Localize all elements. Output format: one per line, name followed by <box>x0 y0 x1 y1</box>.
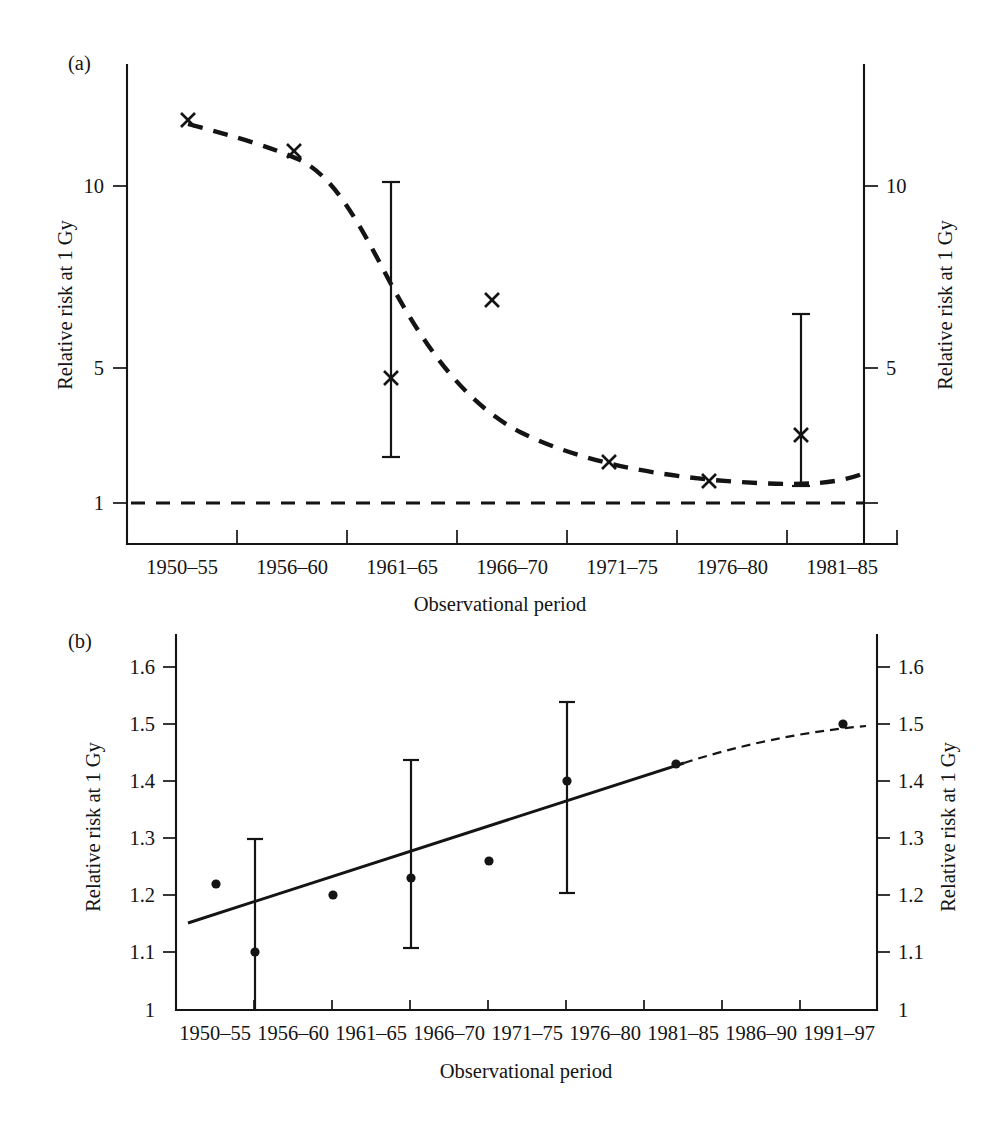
panel-b-marker-1966-70 <box>406 873 415 882</box>
panel-b-ytick-1-2: 1.2 <box>129 884 155 906</box>
panel-b-ytick-right-1-4: 1.4 <box>898 770 924 792</box>
panel-b-ylabel-right: Relative risk at 1 Gy <box>937 741 960 911</box>
panel-b-xtick-7: 1986–90 <box>725 1022 797 1044</box>
panel-a-xtick-3: 1966–70 <box>476 556 548 578</box>
panel-a-xtick-4: 1971–75 <box>586 556 658 578</box>
panel-b-right-axis: 1.6 1.5 1.4 1.3 1.2 1.1 1 Relative risk … <box>877 635 960 1021</box>
panel-a-ytick-right-5: 5 <box>886 357 896 379</box>
panel-b-xtick-1: 1956–60 <box>257 1022 329 1044</box>
panel-a-marker-1966-70 <box>485 293 499 307</box>
panel-b-ytick-right-1-5: 1.5 <box>898 713 924 735</box>
panel-a-ylabel-left: Relative risk at 1 Gy <box>54 219 77 389</box>
panel-a-xtick-1: 1956–60 <box>256 556 328 578</box>
panel-b-xtick-5: 1976–80 <box>569 1022 641 1044</box>
panel-b-marker-1976-80 <box>562 776 571 785</box>
panel-b-ytick-1-1: 1.1 <box>129 941 155 963</box>
panel-a-ytick-5: 5 <box>94 357 104 379</box>
panel-b-ytick-right-1-2: 1.2 <box>898 884 924 906</box>
panel-b-xtick-6: 1981–85 <box>647 1022 719 1044</box>
panel-b-ytick-1-4: 1.4 <box>129 770 155 792</box>
panel-a-letter: (a) <box>68 52 91 75</box>
panel-b-letter: (b) <box>68 630 92 653</box>
figure-container: (a) 10 5 1 Relative risk at 1 Gy 10 5 <box>0 0 999 1129</box>
panel-b-ytick-1: 1 <box>145 999 155 1021</box>
panel-b-marker-1981-85 <box>671 759 680 768</box>
panel-a-ytick-1: 1 <box>94 492 104 514</box>
panel-a-marker-1971-75 <box>602 455 616 469</box>
panel-b-ytick-right-1-1: 1.1 <box>898 941 924 963</box>
panel-a-errorbar-1981-85 <box>792 313 810 487</box>
panel-a-chart: (a) 10 5 1 Relative risk at 1 Gy 10 5 <box>0 0 999 620</box>
panel-b-xlabel: Observational period <box>440 1060 613 1083</box>
panel-b-trend-solid <box>188 763 684 923</box>
panel-b-xtick-8: 1991–97 <box>803 1022 875 1044</box>
panel-b-ylabel-left: Relative risk at 1 Gy <box>82 741 105 911</box>
panel-a-xtick-2: 1961–65 <box>366 556 438 578</box>
panel-b-trend-dashed <box>684 726 866 763</box>
panel-b-marker-1950-55 <box>211 879 220 888</box>
panel-b-chart: (b) 1.6 1.5 1.4 1.3 1.2 1.1 1 Relative r… <box>0 612 999 1129</box>
panel-b-xtick-3: 1966–70 <box>413 1022 485 1044</box>
panel-a-ytick-right-10: 10 <box>886 175 907 197</box>
panel-b-svg: (b) 1.6 1.5 1.4 1.3 1.2 1.1 1 Relative r… <box>0 612 999 1129</box>
panel-b-x-axis <box>176 1000 877 1010</box>
panel-b-xtick-2: 1961–65 <box>335 1022 407 1044</box>
panel-a-xtick-5: 1976–80 <box>696 556 768 578</box>
panel-b-ytick-1-6: 1.6 <box>129 656 155 678</box>
panel-b-xtick-0: 1950–55 <box>179 1022 251 1044</box>
panel-a-errorbar-1961-65 <box>382 181 400 458</box>
panel-b-marker-1991-97 <box>838 719 847 728</box>
panel-b-ytick-1-5: 1.5 <box>129 713 155 735</box>
panel-a-left-axis: 10 5 1 Relative risk at 1 Gy <box>54 65 127 544</box>
panel-b-xtick-4: 1971–75 <box>491 1022 563 1044</box>
panel-a-svg: (a) 10 5 1 Relative risk at 1 Gy 10 5 <box>0 0 999 620</box>
panel-a-ytick-10: 10 <box>84 175 105 197</box>
panel-a-x-axis <box>127 530 897 544</box>
panel-b-ytick-1-3: 1.3 <box>129 827 155 849</box>
panel-b-marker-1961-65 <box>328 890 337 899</box>
panel-b-marker-1971-75 <box>484 856 493 865</box>
panel-b-xtick-labels: 1950–55 1956–60 1961–65 1966–70 1971–75 … <box>179 1022 875 1044</box>
panel-b-ytick-right-1-6: 1.6 <box>898 656 924 678</box>
panel-b-ytick-right-1-3: 1.3 <box>898 827 924 849</box>
panel-a-xtick-6: 1981–85 <box>806 556 878 578</box>
panel-b-errorbar-1956-60 <box>247 838 263 1010</box>
panel-a-right-axis: 10 5 Relative risk at 1 Gy <box>864 65 957 544</box>
panel-a-ylabel-right: Relative risk at 1 Gy <box>934 219 957 389</box>
panel-a-xtick-0: 1950–55 <box>146 556 218 578</box>
panel-a-fit-curve <box>188 124 862 484</box>
panel-b-marker-1956-60 <box>250 947 259 956</box>
panel-b-ytick-right-1: 1 <box>898 999 908 1021</box>
panel-b-left-axis: 1.6 1.5 1.4 1.3 1.2 1.1 1 Relative risk … <box>82 635 176 1021</box>
panel-a-xtick-labels: 1950–55 1956–60 1961–65 1966–70 1971–75 … <box>146 556 878 578</box>
